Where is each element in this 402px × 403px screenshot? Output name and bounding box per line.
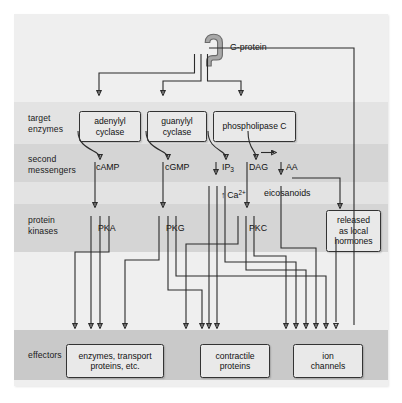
label-ip3: IP3	[222, 162, 234, 175]
box-guanylyl-cyclase[interactable]: guanylyl cyclase	[147, 111, 207, 142]
label-camp: cAMP	[96, 162, 119, 172]
box-ion-channels-label: ion channels	[309, 351, 347, 372]
box-guanylyl-cyclase-label: guanylyl cyclase	[159, 116, 195, 137]
box-ion-channels[interactable]: ion channels	[293, 344, 363, 378]
row-label-second-messengers: second messengers	[28, 154, 76, 175]
label-pka: PKA	[98, 223, 116, 233]
box-contractile-proteins-label: contractile proteins	[213, 351, 256, 372]
diagram-stage: target enzymes second messengers protein…	[0, 0, 402, 403]
diagram-frame: target enzymes second messengers protein…	[14, 14, 388, 386]
label-calcium: ↑ Ca2+	[221, 188, 246, 200]
row-label-effectors: effectors	[28, 350, 62, 361]
label-aa: AA	[286, 162, 298, 172]
label-pkc: PKC	[249, 223, 267, 233]
label-dag: DAG	[249, 162, 268, 172]
band-gap-1	[14, 182, 388, 204]
box-released-as-local-hormones-label: released as local hormones	[332, 215, 374, 246]
box-phospholipase-c-label: phospholipase C	[220, 121, 288, 131]
box-enzymes-transport-proteins-label: enzymes, transport proteins, etc.	[76, 351, 153, 372]
g-protein-label: G-protein	[230, 42, 267, 52]
box-phospholipase-c[interactable]: phospholipase C	[213, 111, 296, 142]
box-enzymes-transport-proteins[interactable]: enzymes, transport proteins, etc.	[66, 344, 164, 378]
box-contractile-proteins[interactable]: contractile proteins	[200, 344, 270, 378]
label-eicosanoids: eicosanoids	[264, 188, 310, 198]
row-label-target-enzymes: target enzymes	[28, 113, 63, 134]
box-released-as-local-hormones[interactable]: released as local hormones	[326, 210, 381, 252]
label-pkg: PKG	[166, 223, 185, 233]
g-protein-icon	[202, 33, 226, 69]
box-adenylyl-cyclase[interactable]: adenylyl cyclase	[79, 111, 141, 142]
box-adenylyl-cyclase-label: adenylyl cyclase	[92, 116, 128, 137]
label-cgmp: cGMP	[165, 162, 189, 172]
row-label-protein-kinases: protein kinases	[28, 215, 58, 236]
